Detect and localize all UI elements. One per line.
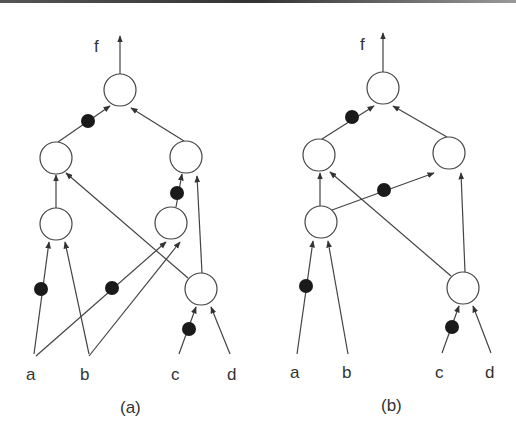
edge [473, 306, 491, 353]
gate-node [447, 272, 479, 304]
caption-a: (a) [120, 398, 141, 417]
inverter-dot [345, 110, 359, 124]
edge [34, 242, 49, 354]
inverter-dot [445, 320, 459, 334]
input-label-a: a [290, 363, 300, 382]
gate-node [303, 139, 335, 171]
edge [297, 241, 313, 354]
input-label-d: d [485, 363, 494, 382]
gate-node [433, 137, 465, 169]
edge [65, 242, 89, 354]
gate-node [170, 141, 202, 173]
input-label-b: b [342, 363, 351, 382]
edge [131, 108, 184, 141]
gate-node [305, 206, 337, 238]
inverter-dot [105, 281, 119, 295]
input-label-c: c [171, 365, 180, 384]
gate-node [185, 273, 217, 305]
inverter-dot [34, 282, 48, 296]
input-label-c: c [435, 363, 444, 382]
edge [89, 242, 180, 356]
edge [393, 106, 447, 137]
gate-node [40, 208, 72, 240]
input-label-b: b [80, 365, 89, 384]
inverter-dot [182, 322, 196, 336]
edge [197, 176, 202, 273]
caption-b: (b) [381, 396, 402, 415]
output-label-f: f [94, 37, 99, 56]
edge [328, 241, 348, 354]
gate-node [367, 72, 399, 104]
output-label-f: f [360, 35, 365, 54]
inverter-dot [377, 183, 391, 197]
inverter-dot [170, 186, 184, 200]
inverter-dot [299, 279, 313, 293]
gate-node [40, 142, 72, 174]
panel-b [297, 33, 491, 354]
edge [211, 307, 230, 354]
input-label-d: d [227, 365, 236, 384]
gate-node [104, 74, 136, 106]
circuit-diagram: f a b c d (a) [0, 0, 516, 437]
edge [36, 242, 166, 356]
panel-a [34, 36, 230, 356]
inverter-dot [81, 114, 95, 128]
input-label-a: a [26, 365, 36, 384]
edge [461, 173, 465, 272]
gate-node [155, 207, 187, 239]
